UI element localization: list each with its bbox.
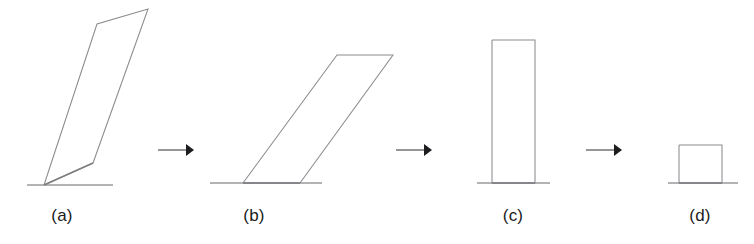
arrow-b-to-c-group <box>396 144 432 156</box>
arrow-c-to-d-group <box>586 144 622 156</box>
shape-c-outline <box>492 40 535 183</box>
arrow-head-c-to-d <box>614 144 622 156</box>
arrow-head-a-to-b <box>186 144 194 156</box>
base-edge-a <box>44 163 93 185</box>
arrow-head-b-to-c <box>424 144 432 156</box>
panel-a-group <box>27 9 148 185</box>
panel-label-c: (c) <box>483 206 543 226</box>
panel-label-a: (a) <box>32 206 92 226</box>
figure-diagram <box>0 0 754 244</box>
panel-b-group <box>210 55 393 183</box>
panel-label-d: (d) <box>670 206 730 226</box>
arrow-a-to-b-group <box>158 144 194 156</box>
shape-d-outline <box>679 145 722 183</box>
panel-c-group <box>477 40 550 183</box>
shape-b-outline <box>243 55 393 183</box>
panel-label-b: (b) <box>224 206 284 226</box>
figure-container: (a) (b) (c) (d) <box>0 0 754 244</box>
panel-d-group <box>668 145 738 183</box>
shape-a-outline <box>44 9 148 185</box>
